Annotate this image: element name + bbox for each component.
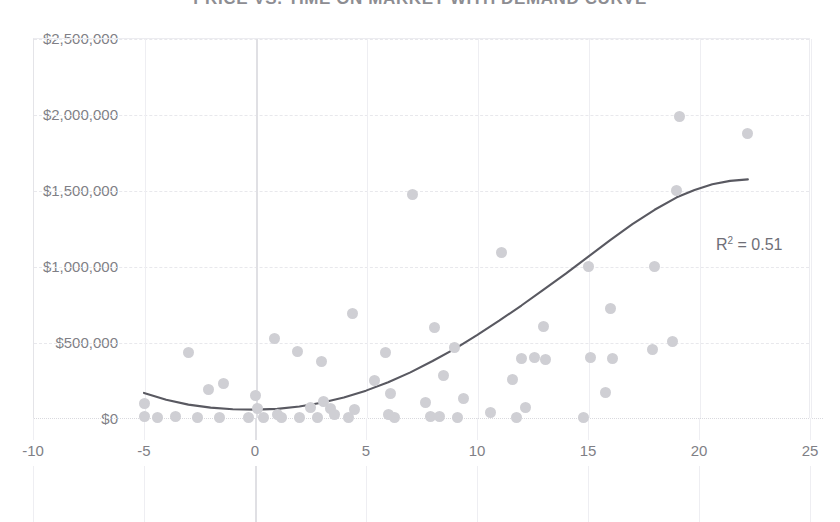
gridline-vertical-stub xyxy=(477,418,478,440)
scatter-point xyxy=(250,390,261,401)
scatter-point xyxy=(485,407,496,418)
scatter-point xyxy=(183,347,194,358)
gridline-vertical xyxy=(256,39,258,418)
r-squared-annotation: R2 = 0.51 xyxy=(716,236,783,253)
scatter-point xyxy=(294,412,305,423)
scatter-point xyxy=(647,344,658,355)
gridline-horizontal xyxy=(34,39,809,40)
gridline-vertical-stub xyxy=(810,418,811,440)
x-axis-tick-label: 20 xyxy=(691,443,708,458)
scatter-point xyxy=(511,412,522,423)
scatter-point xyxy=(214,412,225,423)
scatter-point xyxy=(258,412,269,423)
scatter-point xyxy=(139,398,150,409)
scatter-point xyxy=(507,374,518,385)
scatter-point xyxy=(192,412,203,423)
scatter-point xyxy=(369,375,380,386)
scatter-point xyxy=(312,412,323,423)
gridline-vertical-stub xyxy=(588,466,589,522)
scatter-point xyxy=(671,185,682,196)
gridline-vertical-stub xyxy=(366,418,367,440)
scatter-point xyxy=(667,336,678,347)
x-axis-tick-label: 10 xyxy=(469,443,486,458)
gridline-vertical-stub xyxy=(699,466,700,522)
scatter-point xyxy=(276,412,287,423)
gridline-horizontal xyxy=(34,343,809,344)
scatter-point xyxy=(347,308,358,319)
gridline-vertical-stub xyxy=(255,466,257,522)
scatter-point xyxy=(583,261,594,272)
scatter-point xyxy=(605,303,616,314)
scatter-point xyxy=(674,111,685,122)
chart-container: PRICE VS. TIME ON MARKET WITH DEMAND CUR… xyxy=(0,0,840,522)
gridline-vertical-stub xyxy=(33,418,34,440)
gridline-vertical-stub xyxy=(699,418,700,440)
x-axis-tick-label: 0 xyxy=(251,443,259,458)
gridline-horizontal xyxy=(34,267,809,268)
scatter-point xyxy=(292,346,303,357)
x-axis-tick-label: 25 xyxy=(802,443,819,458)
scatter-point xyxy=(243,412,254,423)
scatter-point xyxy=(152,412,163,423)
scatter-point xyxy=(170,411,181,422)
scatter-point xyxy=(434,411,445,422)
chart-title: PRICE VS. TIME ON MARKET WITH DEMAND CUR… xyxy=(0,0,840,9)
gridline-vertical-stub xyxy=(810,466,811,522)
scatter-point xyxy=(458,393,469,404)
gridline-vertical xyxy=(367,39,368,418)
scatter-point xyxy=(496,247,507,258)
gridline-vertical-stub xyxy=(255,418,257,440)
gridline-vertical-stub xyxy=(477,466,478,522)
gridline-vertical xyxy=(811,39,812,418)
x-axis-tick-label: 5 xyxy=(362,443,370,458)
gridline-horizontal xyxy=(34,191,809,192)
scatter-point xyxy=(305,402,316,413)
gridline-vertical xyxy=(478,39,479,418)
x-axis-tick-label: -5 xyxy=(137,443,150,458)
gridline-horizontal xyxy=(34,115,809,116)
gridline-vertical-stub xyxy=(33,466,34,522)
scatter-point xyxy=(452,412,463,423)
gridline-vertical xyxy=(145,39,146,418)
x-axis-tick-label: 15 xyxy=(580,443,597,458)
scatter-point xyxy=(578,412,589,423)
x-axis-tick-label: -10 xyxy=(22,443,44,458)
gridline-vertical-stub xyxy=(144,466,145,522)
plot-area xyxy=(33,38,810,418)
scatter-point xyxy=(385,388,396,399)
r-squared-text: R2 = 0.51 xyxy=(716,236,783,253)
gridline-vertical xyxy=(700,39,701,418)
scatter-point xyxy=(389,412,400,423)
gridline-vertical-stub xyxy=(588,418,589,440)
scatter-point xyxy=(139,411,150,422)
gridline-vertical-stub xyxy=(366,466,367,522)
